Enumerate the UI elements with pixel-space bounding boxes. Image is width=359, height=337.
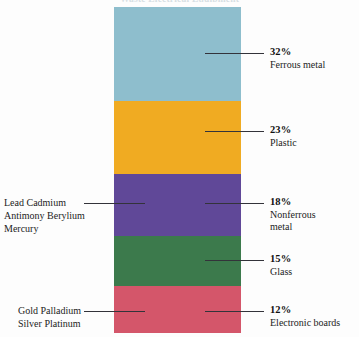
hazardous-materials-line1: Lead Cadmium	[4, 196, 84, 209]
hazardous-materials-line3: Mercury	[4, 222, 84, 235]
precious-metals-line2: Silver Platinum	[18, 317, 98, 330]
percent-electronic-boards: 12%	[270, 304, 340, 317]
callout-nonferrous-metal: 18% Nonferrous metal	[270, 196, 316, 234]
band-electronic-boards[interactable]	[114, 286, 241, 333]
leader-line-plastic	[205, 131, 264, 132]
percent-ferrous-metal: 32%	[270, 46, 325, 59]
stacked-bar	[114, 7, 241, 333]
percent-glass: 15%	[270, 253, 292, 266]
callout-hazardous-materials: Lead Cadmium Antimony Berylium Mercury	[4, 196, 84, 235]
band-glass[interactable]	[114, 236, 241, 286]
callout-electronic-boards: 12% Electronic boards	[270, 304, 340, 329]
waste-composition-chart: Waste Electrical Equipment 32% Ferrous m…	[0, 0, 359, 337]
label-ferrous-metal: Ferrous metal	[270, 59, 325, 72]
label-plastic: Plastic	[270, 137, 297, 150]
label-nonferrous-metal-line1: Nonferrous	[270, 209, 316, 222]
band-plastic[interactable]	[114, 101, 241, 174]
leader-line-electronic-boards	[205, 311, 264, 312]
label-glass: Glass	[270, 266, 292, 279]
callout-precious-metals: Gold Palladium Silver Platinum	[18, 304, 98, 330]
leader-line-hazardous-materials	[84, 203, 145, 204]
callout-ferrous-metal: 32% Ferrous metal	[270, 46, 325, 71]
label-electronic-boards: Electronic boards	[270, 317, 340, 330]
band-ferrous-metal[interactable]	[114, 7, 241, 101]
leader-line-nonferrous-metal	[205, 203, 264, 204]
leader-line-glass	[205, 260, 264, 261]
leader-line-ferrous-metal	[205, 53, 264, 54]
chart-title: Waste Electrical Equipment	[0, 0, 359, 2]
percent-nonferrous-metal: 18%	[270, 196, 316, 209]
precious-metals-line1: Gold Palladium	[18, 304, 98, 317]
percent-plastic: 23%	[270, 124, 297, 137]
band-nonferrous-metal[interactable]	[114, 174, 241, 236]
callout-plastic: 23% Plastic	[270, 124, 297, 149]
callout-glass: 15% Glass	[270, 253, 292, 278]
hazardous-materials-line2: Antimony Berylium	[4, 209, 84, 222]
label-nonferrous-metal-line2: metal	[270, 221, 316, 234]
